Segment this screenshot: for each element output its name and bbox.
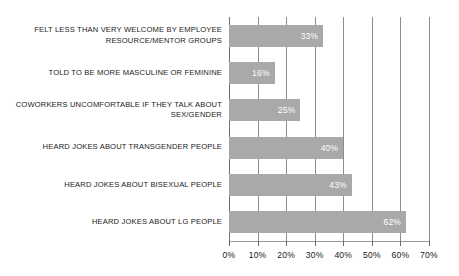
bars-layer: 33%16%25%40%43%62% [229, 17, 429, 241]
bar-value-label: 40% [229, 137, 343, 159]
category-label: HEARD JOKES ABOUT BISEXUAL PEOPLE [0, 180, 222, 191]
bar-row: 16% [229, 62, 429, 84]
category-axis: FELT LESS THAN VERY WELCOME BY EMPLOYEE … [0, 17, 222, 241]
category-label: HEARD JOKES ABOUT LG PEOPLE [0, 217, 222, 228]
x-tick-70 [429, 241, 430, 246]
x-tick-30 [315, 241, 316, 246]
bar: 33% [229, 25, 323, 47]
bar-row: 43% [229, 174, 429, 196]
bar-row: 25% [229, 99, 429, 121]
x-axis-baseline [229, 241, 429, 242]
x-tick-60 [400, 241, 401, 246]
plot-area: 33%16%25%40%43%62% [229, 17, 429, 241]
category-label: COWORKERS UNCOMFORTABLE IF THEY TALK ABO… [0, 100, 222, 121]
x-tick-0 [229, 241, 230, 246]
bar-chart: FELT LESS THAN VERY WELCOME BY EMPLOYEE … [0, 0, 459, 276]
bar-value-label: 25% [229, 99, 300, 121]
category-label: FELT LESS THAN VERY WELCOME BY EMPLOYEE … [0, 25, 222, 46]
bar-value-label: 43% [229, 174, 352, 196]
bar-value-label: 33% [229, 25, 323, 47]
bar: 25% [229, 99, 300, 121]
bar-row: 33% [229, 25, 429, 47]
bar-value-label: 16% [229, 62, 275, 84]
bar: 62% [229, 211, 406, 233]
bar-value-label: 62% [229, 211, 406, 233]
bar: 40% [229, 137, 343, 159]
bar-row: 40% [229, 137, 429, 159]
category-label: TOLD TO BE MORE MASCULINE OR FEMININE [0, 68, 222, 79]
category-label: HEARD JOKES ABOUT TRANSGENDER PEOPLE [0, 142, 222, 153]
bar-row: 62% [229, 211, 429, 233]
x-tick-label: 70% [409, 250, 449, 260]
x-tick-50 [372, 241, 373, 246]
x-tick-40 [343, 241, 344, 246]
bar: 43% [229, 174, 352, 196]
gridline-70 [429, 17, 430, 241]
x-tick-10 [258, 241, 259, 246]
bar: 16% [229, 62, 275, 84]
x-tick-20 [286, 241, 287, 246]
